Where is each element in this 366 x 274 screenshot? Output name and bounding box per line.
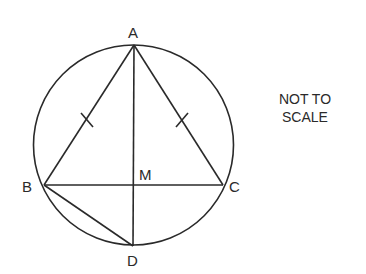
segment-bd	[44, 185, 133, 246]
segment-ab	[44, 45, 134, 185]
segment-ac	[134, 45, 223, 185]
geometry-diagram: A B C D M	[0, 0, 366, 274]
note-line-1: NOT TO	[265, 90, 345, 108]
label-b: B	[22, 178, 32, 195]
label-c: C	[229, 178, 240, 195]
note-line-2: SCALE	[265, 108, 345, 126]
label-m: M	[139, 166, 152, 183]
segment-ad	[133, 45, 134, 246]
not-to-scale-note: NOT TO SCALE	[265, 90, 345, 126]
label-d: D	[127, 252, 138, 269]
label-a: A	[128, 24, 138, 41]
